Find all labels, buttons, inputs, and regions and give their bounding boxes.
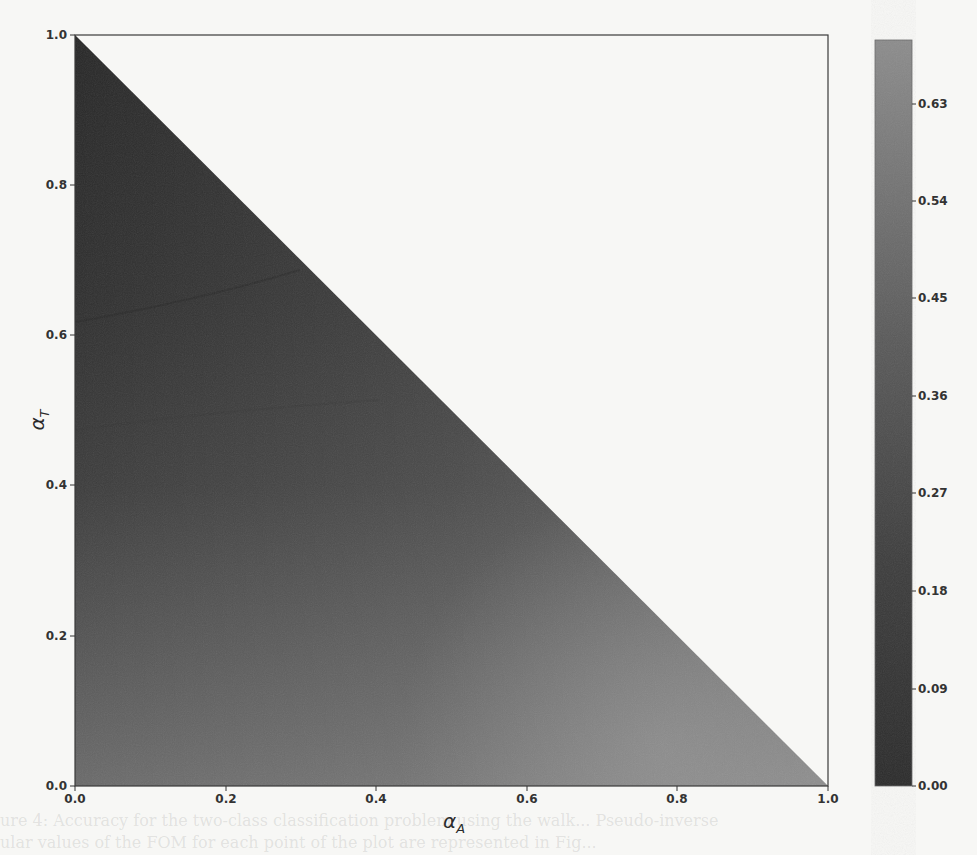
colorbar: 0.00 0.09 0.18 0.27 0.36 0.45 0.54 0.63	[875, 40, 948, 793]
y-axis-label: αT	[25, 408, 52, 430]
y-tick-label: 0.0	[46, 779, 67, 793]
x-tick-label: 0.0	[64, 792, 85, 806]
figure: 0.0 0.2 0.4 0.6 0.8 1.0 αA 0.0 0.2 0.4 0…	[0, 0, 977, 855]
heatmap-chart: 0.0 0.2 0.4 0.6 0.8 1.0 αA 0.0 0.2 0.4 0…	[0, 0, 977, 855]
x-tick-label: 0.4	[365, 792, 386, 806]
colorbar-tick-label: 0.36	[918, 389, 948, 403]
colorbar-tick-label: 0.54	[918, 194, 948, 208]
x-tick-label: 0.8	[666, 792, 687, 806]
colorbar-tick-label: 0.27	[918, 486, 948, 500]
y-tick-label: 0.6	[46, 328, 67, 342]
colorbar-tick-label: 0.45	[918, 291, 948, 305]
y-tick-label: 0.8	[46, 178, 67, 192]
y-tick-label: 1.0	[46, 28, 67, 42]
y-tick-label: 0.4	[46, 478, 67, 492]
x-axis-label: αA	[443, 809, 465, 836]
colorbar-tick-label: 0.18	[918, 584, 948, 598]
colorbar-tick-label: 0.09	[918, 682, 948, 696]
colorbar-tick-label: 0.00	[918, 779, 948, 793]
colorbar-tick-label: 0.63	[918, 97, 948, 111]
x-tick-label: 0.6	[516, 792, 537, 806]
x-tick-label: 0.2	[215, 792, 236, 806]
y-axis: 0.0 0.2 0.4 0.6 0.8 1.0 αT	[25, 28, 75, 793]
x-tick-label: 1.0	[817, 792, 838, 806]
heatmap-region	[75, 35, 828, 786]
y-tick-label: 0.2	[46, 629, 67, 643]
x-axis: 0.0 0.2 0.4 0.6 0.8 1.0 αA	[64, 786, 838, 836]
